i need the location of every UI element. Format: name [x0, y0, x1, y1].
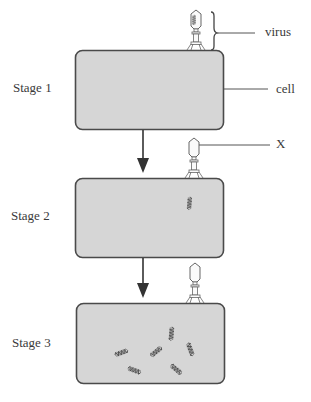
stage-2-label: Stage 2 [11, 208, 50, 224]
stage-3-label: Stage 3 [12, 335, 51, 351]
x-callout-label: X [276, 136, 285, 152]
virus-callout-label: virus [265, 24, 291, 40]
stage-1-label: Stage 1 [13, 80, 52, 96]
stage-3-cell [77, 304, 225, 384]
stage-1-virus-icon [187, 10, 205, 50]
arrow-stage2-to-stage3 [137, 258, 149, 298]
cell-callout-label: cell [276, 81, 295, 97]
stage-1-cell [76, 51, 224, 130]
stage-2-cell [76, 179, 224, 258]
stage-3-virus-icon [186, 263, 204, 303]
virus-bracket [211, 12, 255, 50]
stage-2-virus-icon [185, 138, 203, 178]
arrow-stage1-to-stage2 [137, 130, 149, 173]
